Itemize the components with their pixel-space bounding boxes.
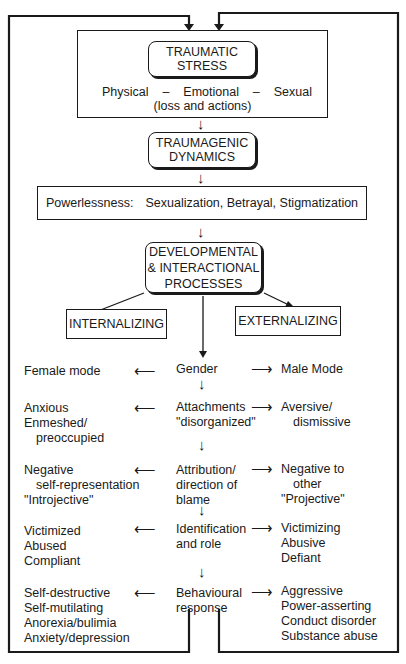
processes-line1: DEVELOPMENTAL (149, 244, 258, 260)
arrow-right-icon: ⟶ (251, 361, 273, 376)
left-text: Victimized (24, 524, 81, 539)
dynamics-list-box: Powerlessness: Sexualization, Betrayal, … (37, 186, 367, 220)
arrow-left-icon: ⟵ (134, 462, 156, 477)
internalizing-label: INTERNALIZING (69, 317, 164, 331)
stress-type-physical: Physical (102, 85, 149, 100)
right-text: Power-asserting (281, 599, 378, 614)
center-text: blame (176, 493, 237, 508)
center-text: Attribution/ (176, 463, 237, 478)
left-text: Anxious (24, 401, 104, 416)
row-gender-left: Female mode (24, 364, 100, 379)
row-attachments-left: Anxious Enmeshed/ preoccupied (24, 401, 104, 446)
right-text: dismissive (281, 415, 351, 430)
traumatic-stress-box: TRAUMATIC STRESS (148, 41, 256, 77)
center-text: Behavioural (176, 586, 242, 601)
row-attribution-left: Negative self-representation "Introjecti… (24, 463, 140, 508)
row-gender-right: Male Mode (281, 362, 343, 377)
right-text: Aggressive (281, 584, 378, 599)
center-text: response (176, 601, 242, 616)
row-identification-left: Victimized Abused Compliant (24, 524, 81, 569)
row-behaviour-right: Aggressive Power-asserting Conduct disor… (281, 584, 378, 644)
left-text: Anorexia/bulimia (24, 616, 130, 631)
row-behaviour-left: Self-destructive Self-mutilating Anorexi… (24, 586, 130, 646)
center-text: Identification (176, 522, 246, 537)
arrow-to-gender (199, 351, 207, 358)
row-attribution-right: Negative to other "Projective" (281, 462, 345, 507)
left-text: Abused (24, 539, 81, 554)
processes-line2: & INTERACTIONAL (148, 260, 260, 276)
arrow-left-icon: ⟵ (134, 400, 156, 415)
dynamics-list-label: Powerlessness: (46, 196, 134, 210)
center-text: "disorganized" (176, 415, 256, 430)
right-text: "Projective" (281, 492, 345, 507)
stress-type-sep1: – (162, 85, 169, 100)
left-text: Self-mutilating (24, 601, 130, 616)
traumatic-stress-line2: STRESS (177, 59, 227, 73)
left-text: preoccupied (24, 431, 104, 446)
row-identification-right: Victimizing Abusive Defiant (281, 521, 341, 566)
externalizing-label: EXTERNALIZING (238, 314, 337, 328)
right-text: Defiant (281, 551, 341, 566)
right-text: other (281, 477, 345, 492)
right-text: Substance abuse (281, 629, 378, 644)
stress-type-sep2: – (253, 85, 260, 100)
left-text: Female mode (24, 364, 100, 379)
traumatic-stress-container: TRAUMATIC STRESS Physical – Emotional – … (77, 30, 328, 118)
arrow-down-icon: ↓ (198, 564, 206, 579)
left-text: Enmeshed/ (24, 416, 104, 431)
externalizing-box: EXTERNALIZING (235, 306, 341, 336)
right-text: Negative to (281, 462, 345, 477)
left-text: Compliant (24, 554, 81, 569)
arrow-left-icon: ⟵ (134, 585, 156, 600)
arrow-down-icon: ↓ (198, 502, 206, 517)
arrow-down-icon: ↓ (198, 376, 206, 391)
left-text: Self-destructive (24, 586, 130, 601)
processes-line3: PROCESSES (165, 276, 243, 292)
row-attachments-center: Attachments "disorganized" (176, 400, 256, 430)
stress-types: Physical – Emotional – Sexual (102, 85, 312, 100)
row-identification-center: Identification and role (176, 522, 246, 552)
developmental-processes-box: DEVELOPMENTAL & INTERACTIONAL PROCESSES (145, 242, 262, 293)
right-text: Victimizing (281, 521, 341, 536)
left-text: self-representation (24, 478, 140, 493)
row-gender-center: Gender (176, 362, 218, 377)
right-text: Conduct disorder (281, 614, 378, 629)
internalizing-box: INTERNALIZING (66, 309, 167, 339)
center-text: direction of (176, 478, 237, 493)
arrow-right-icon: ⟶ (251, 461, 273, 476)
arrow-left-icon: ⟵ (134, 363, 156, 378)
arrow-down-icon: ↓ (197, 116, 205, 131)
stress-subtitle: (loss and actions) (78, 99, 327, 114)
left-text: "Introjective" (24, 493, 140, 508)
center-text: and role (176, 537, 246, 552)
right-text: Aversive/ (281, 400, 351, 415)
arrow-down-icon: ↓ (198, 437, 206, 452)
arrow-down-icon: ↓ (197, 170, 205, 185)
stress-type-emotional: Emotional (183, 85, 239, 100)
left-text: Negative (24, 463, 140, 478)
right-text: Abusive (281, 536, 341, 551)
arrow-left-icon: ⟵ (134, 521, 156, 536)
center-text: Gender (176, 362, 218, 377)
dynamics-list-items: Sexualization, Betrayal, Stigmatization (145, 196, 358, 210)
center-text: Attachments (176, 400, 256, 415)
row-attribution-center: Attribution/ direction of blame (176, 463, 237, 508)
dynamics-line1: TRAUMAGENIC (156, 136, 248, 150)
traumagenic-dynamics-box: TRAUMAGENIC DYNAMICS (148, 132, 256, 168)
left-text: Anxiety/depression (24, 631, 130, 646)
arrow-right-icon: ⟶ (251, 399, 273, 414)
traumatic-stress-line1: TRAUMATIC (166, 45, 238, 59)
arrow-right-icon: ⟶ (251, 584, 273, 599)
row-attachments-right: Aversive/ dismissive (281, 400, 351, 430)
right-text: Male Mode (281, 362, 343, 377)
dynamics-line2: DYNAMICS (169, 150, 235, 164)
row-behaviour-center: Behavioural response (176, 586, 242, 616)
arrow-down-icon: ↓ (197, 224, 205, 239)
stress-type-sexual: Sexual (274, 85, 312, 100)
arrow-right-icon: ⟶ (251, 520, 273, 535)
